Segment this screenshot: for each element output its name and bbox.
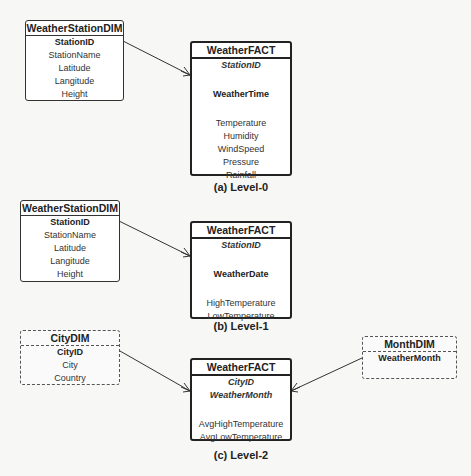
measure: Temperature <box>192 117 290 130</box>
measure: AvgHighTemperature <box>192 418 290 431</box>
spacer <box>192 402 290 418</box>
foreign-key: StationID <box>192 239 290 252</box>
primary-key: StationID <box>26 36 123 49</box>
attribute: Latitude <box>21 242 119 255</box>
crow-foot-icon <box>181 248 190 257</box>
entity-title: WeatherFACT <box>192 223 290 239</box>
weather-fact-level0: WeatherFACT StationID WeatherTime Temper… <box>190 41 292 176</box>
spacer <box>192 281 290 297</box>
crow-foot-icon <box>181 67 190 76</box>
time-key: WeatherDate <box>192 268 290 281</box>
weather-fact-level1: WeatherFACT StationID WeatherDate HighTe… <box>190 221 292 319</box>
crow-foot-icon <box>181 383 190 392</box>
measure: AvgLowTemperature <box>192 431 290 444</box>
foreign-key: WeatherMonth <box>192 389 290 402</box>
spacer <box>192 252 290 268</box>
attribute: StationName <box>26 49 123 62</box>
city-dim-level2: CityDIM CityID City Country <box>20 330 120 385</box>
measure: Pressure <box>192 156 290 169</box>
measure: WindSpeed <box>192 143 290 156</box>
attribute: Height <box>21 268 119 281</box>
attribute: Height <box>26 88 123 101</box>
crow-foot-icon <box>291 383 300 392</box>
entity-title: WeatherStationDIM <box>21 201 119 216</box>
caption-level2: (c) Level-2 <box>181 449 301 461</box>
foreign-key: StationID <box>192 59 290 72</box>
primary-key: CityID <box>21 346 119 359</box>
attribute: City <box>21 359 119 372</box>
primary-key: StationID <box>21 216 119 229</box>
attribute: Langitude <box>26 75 123 88</box>
attribute: Langitude <box>21 255 119 268</box>
entity-title: WeatherFACT <box>192 360 290 376</box>
spacer <box>192 101 290 117</box>
weatherstation-dim-level1: WeatherStationDIM StationID StationName … <box>20 200 120 282</box>
foreign-key: CityID <box>192 376 290 389</box>
measure: Humidity <box>192 130 290 143</box>
entity-title: WeatherStationDIM <box>26 21 123 36</box>
caption-level0: (a) Level-0 <box>181 181 301 193</box>
attribute: Latitude <box>26 62 123 75</box>
attribute: StationName <box>21 229 119 242</box>
entity-title: CityDIM <box>21 331 119 346</box>
caption-level1: (b) Level-1 <box>181 320 301 332</box>
primary-key: WeatherMonth <box>363 352 456 365</box>
entity-title: MonthDIM <box>363 337 456 352</box>
entity-title: WeatherFACT <box>192 43 290 59</box>
spacer <box>192 72 290 88</box>
weather-fact-level2: WeatherFACT CityID WeatherMonth AvgHighT… <box>190 358 292 441</box>
month-dim-level2: MonthDIM WeatherMonth <box>362 336 457 379</box>
attribute: Country <box>21 372 119 385</box>
measure: HighTemperature <box>192 297 290 310</box>
weatherstation-dim-level0: WeatherStationDIM StationID StationName … <box>25 20 124 101</box>
time-key: WeatherTime <box>192 88 290 101</box>
